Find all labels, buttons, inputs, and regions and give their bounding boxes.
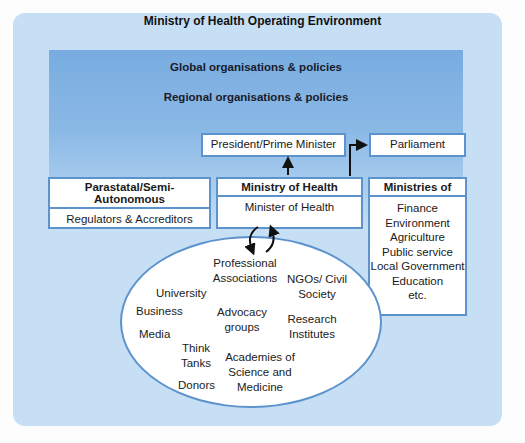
ministries-box: Ministries of Finance Environment Agricu… [368, 177, 467, 316]
parastatal-header: Parastatal/Semi-Autonomous [50, 179, 209, 209]
stakeholder-media: Media [139, 327, 170, 342]
parliament-label: Parliament [390, 138, 445, 150]
president-label: President/Prime Minister [211, 138, 336, 150]
parliament-box: Parliament [369, 133, 466, 157]
ministry-item: Environment [370, 216, 465, 231]
ministries-list: Finance Environment Agriculture Public s… [370, 197, 465, 306]
regional-layer-label: Regional organisations & policies [49, 91, 463, 103]
moh-header: Ministry of Health [218, 179, 361, 197]
stakeholder-university: University [156, 286, 206, 301]
stakeholder-think-tanks: Think Tanks [176, 341, 216, 371]
parastatal-box: Parastatal/Semi-Autonomous Regulators & … [48, 177, 211, 229]
ministries-header: Ministries of [370, 179, 465, 197]
stakeholder-advocacy-groups: Advocacy groups [212, 305, 272, 335]
moh-box: Ministry of Health Minister of Health [216, 177, 363, 229]
global-layer-label: Global organisations & policies [49, 61, 463, 73]
stakeholder-business: Business [136, 304, 183, 319]
parastatal-body: Regulators & Accreditors [50, 209, 209, 229]
ministry-item: Education [370, 274, 465, 289]
stakeholder-ngos: NGOs/ Civil Society [283, 272, 351, 302]
ministry-item: Local Government [366, 259, 469, 274]
ministry-item: etc. [370, 288, 465, 303]
stakeholder-academies: Academies of Science and Medicine [222, 350, 298, 395]
ministry-item: Public service [370, 245, 465, 260]
stakeholder-research-institutes: Research Institutes [282, 312, 342, 342]
diagram-title: Ministry of Health Operating Environment [0, 14, 525, 28]
ministry-item: Finance [370, 201, 465, 216]
stakeholder-professional-associations: Professional Associations [205, 256, 285, 286]
stakeholder-donors: Donors [178, 378, 215, 393]
president-box: President/Prime Minister [201, 133, 346, 157]
ministry-item: Agriculture [370, 230, 465, 245]
moh-body: Minister of Health [218, 197, 361, 217]
